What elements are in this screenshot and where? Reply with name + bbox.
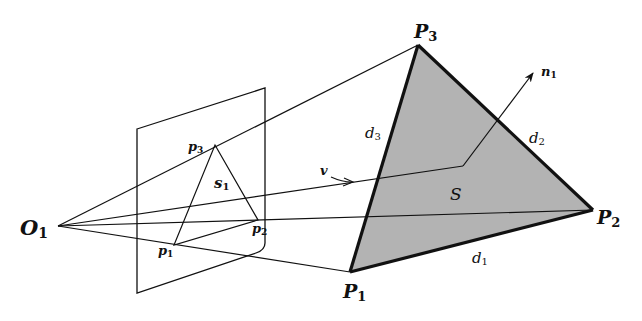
image-plane	[137, 88, 265, 293]
label-v: v	[320, 163, 328, 178]
ray-to-P1	[58, 226, 350, 272]
label-p3: p3	[188, 139, 203, 155]
label-P1: P1	[342, 280, 366, 304]
label-p1: p1	[158, 243, 173, 259]
label-S: S	[450, 184, 462, 204]
image-triangle-s1	[174, 145, 258, 245]
label-d1: d1	[472, 249, 488, 267]
label-d2: d2	[529, 129, 545, 147]
projection-diagram: O1 p3 p2 p1 s1 P3 P2 P1 d3 d2 d1 S n1 v	[0, 0, 642, 321]
label-O1: O1	[20, 215, 48, 241]
label-s1: s1	[214, 174, 229, 192]
label-P2: P2	[596, 206, 620, 230]
label-n1: n1	[541, 64, 557, 80]
label-P3: P3	[413, 20, 437, 44]
label-d3: d3	[365, 124, 381, 142]
